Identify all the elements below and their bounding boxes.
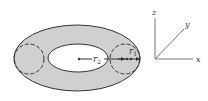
y-axis bbox=[155, 29, 184, 59]
z-axis-label: z bbox=[151, 8, 157, 17]
torus-diagram: r2 r1 z y x bbox=[0, 0, 208, 101]
x-axis-label: x bbox=[196, 55, 201, 64]
y-axis-label: y bbox=[184, 20, 190, 29]
